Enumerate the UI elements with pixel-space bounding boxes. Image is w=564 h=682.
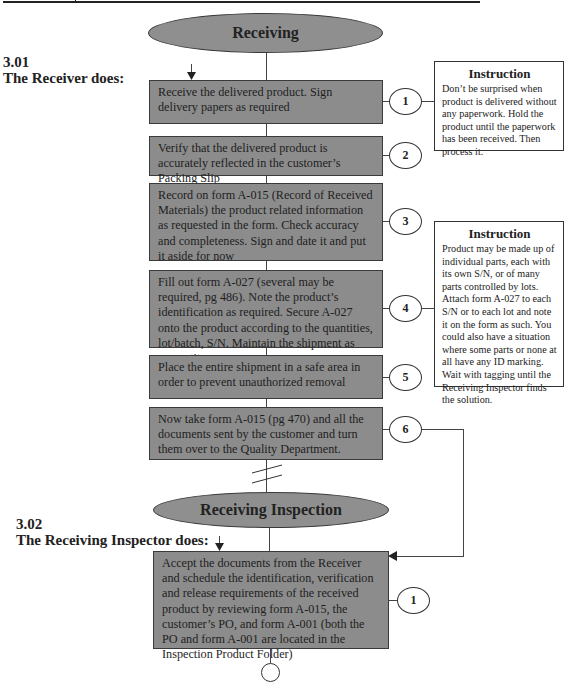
step-box-1: Receive the delivered product. Sign deli…: [149, 80, 383, 124]
connector-line: [422, 101, 434, 102]
arrow-down-icon: [187, 72, 196, 80]
arrow-left-icon: [388, 551, 397, 561]
section-number-3-01: 3.01: [3, 54, 29, 71]
instruction-title: Instruction: [442, 66, 557, 82]
connector-line: [266, 124, 267, 136]
step-box-5: Place the entire shipment in a safe area…: [149, 355, 383, 399]
step-box-3: Record on form A-015 (Record of Received…: [149, 183, 383, 261]
connector-line: [422, 429, 463, 430]
connector-line: [389, 600, 397, 601]
instruction-text: Product may be made up of individual par…: [442, 243, 557, 407]
terminator-receiving-inspection: Receiving Inspection: [153, 492, 389, 528]
break-marks-icon: [250, 463, 284, 485]
section-number-3-02: 3.02: [16, 516, 42, 533]
off-page-connector-icon: [261, 663, 280, 682]
connector-line: [396, 556, 464, 557]
step-box-2: Verify that the delivered product is acc…: [149, 136, 383, 176]
header-rule-divider: [75, 0, 76, 3]
terminator-receiving: Receiving: [148, 13, 383, 53]
instruction-text: Don’t be surprised when product is deliv…: [442, 83, 557, 159]
section-title-receiving-inspector: The Receiving Inspector does:: [16, 532, 209, 549]
step-number-4: 4: [389, 295, 422, 322]
connector-line: [270, 649, 271, 663]
step-box-4: Fill out form A-027 (several may be requ…: [149, 270, 383, 348]
instruction-box-1: Instruction Don’t be surprised when prod…: [434, 61, 564, 151]
step-number-1: 1: [389, 88, 422, 115]
step-number-inspection-1: 1: [397, 587, 430, 614]
step-number-5: 5: [389, 364, 422, 391]
step-number-6: 6: [389, 416, 422, 443]
step-box-6: Now take form A-015 (pg 470) and all the…: [149, 407, 383, 460]
connector-line: [463, 429, 464, 556]
connector-line: [266, 176, 267, 183]
instruction-title: Instruction: [442, 226, 557, 242]
instruction-box-2: Instruction Product may be made up of in…: [434, 221, 564, 387]
connector-line: [269, 528, 270, 551]
connector-line: [422, 308, 434, 309]
arrow-down-icon: [215, 543, 224, 551]
connector-line: [266, 399, 267, 407]
connector-line: [266, 261, 267, 270]
step-number-2: 2: [389, 142, 422, 169]
section-title-receiver: The Receiver does:: [3, 70, 124, 87]
connector-line: [266, 348, 267, 355]
step-number-3: 3: [389, 208, 422, 235]
step-box-inspection-1: Accept the documents from the Receiver a…: [153, 551, 389, 649]
connector-line: [266, 53, 267, 80]
